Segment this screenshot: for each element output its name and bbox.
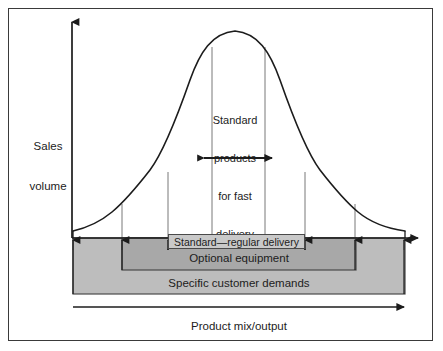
callout-line-1: Standard	[196, 114, 274, 127]
x-axis-label: Product mix/output	[73, 320, 405, 333]
band-label-specific-customer-demands: Specific customer demands	[73, 277, 405, 290]
band-label-optional-equipment: Optional equipment	[122, 252, 356, 265]
y-axis-label: Sales volume	[20, 113, 76, 220]
callout-line-2: products	[196, 152, 274, 165]
figure-canvas: Sales volume Standard products for fast …	[0, 0, 443, 351]
y-axis-label-line1: Sales	[20, 140, 76, 153]
band-label-standard-regular-delivery: Standard—regular delivery	[168, 234, 305, 249]
callout-line-3: for fast	[196, 190, 274, 203]
y-axis-label-line2: volume	[20, 180, 76, 193]
